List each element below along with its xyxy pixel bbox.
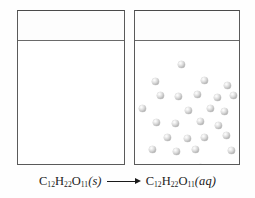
dissolved-particle xyxy=(173,148,180,155)
dissolved-particle xyxy=(228,147,235,154)
product-state-symbol: (aq) xyxy=(195,174,216,188)
reaction-arrow-icon xyxy=(107,177,141,186)
reaction-equation: C12H22O11(s) C12H22O11(aq) xyxy=(0,168,255,194)
product-formula: C12H22O11(aq) xyxy=(146,175,216,188)
liquid-body-left xyxy=(18,42,124,164)
dissolved-particle xyxy=(192,146,199,153)
dissolved-particle xyxy=(152,78,159,85)
liquid-body-right xyxy=(135,42,239,164)
beaker-with-aqueous-sucrose xyxy=(134,10,240,165)
headspace-right xyxy=(135,11,239,41)
dissolved-particle xyxy=(194,91,201,98)
dissolved-particle xyxy=(139,105,146,112)
dissolved-particle xyxy=(197,164,204,165)
dissolved-particle xyxy=(197,118,204,125)
beaker-with-solid-sucrose xyxy=(17,10,125,165)
dissolved-particle xyxy=(215,122,222,129)
dissolved-particle xyxy=(207,105,214,112)
dissolved-particle xyxy=(153,119,160,126)
dissolved-particle xyxy=(185,107,192,114)
dissolved-particle xyxy=(164,134,171,141)
dissolved-particle xyxy=(184,135,191,142)
dissolved-particle xyxy=(214,94,221,101)
dissolved-particle xyxy=(175,93,182,100)
dissolved-particle xyxy=(149,146,156,153)
dissolved-particle xyxy=(201,77,208,84)
dissolved-particle xyxy=(230,92,237,99)
dissolved-particle xyxy=(201,134,208,141)
dissolved-particle xyxy=(223,132,230,139)
dissolved-particle xyxy=(224,82,231,89)
reactant-state-symbol: (s) xyxy=(88,174,102,188)
headspace-left xyxy=(18,11,124,41)
dissolved-particle xyxy=(172,120,179,127)
dissolved-particle xyxy=(178,61,185,68)
reactant-formula: C12H22O11(s) xyxy=(39,175,102,188)
dissolution-figure: C12H22O11(s) C12H22O11(aq) xyxy=(0,0,255,198)
dissolved-particle xyxy=(221,108,228,115)
dissolved-particle xyxy=(157,92,164,99)
